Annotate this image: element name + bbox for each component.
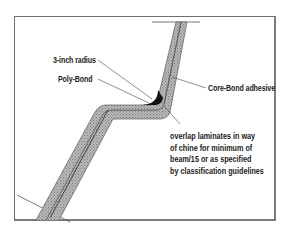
note-line: by classification guidelines (170, 166, 264, 178)
core-bond-line (50, 110, 108, 218)
note-line: overlap laminates in way (170, 131, 264, 143)
leader-core-bond (172, 77, 206, 88)
overlap-note: overlap laminates in way of chine for mi… (170, 131, 264, 177)
leader-radius (98, 60, 152, 99)
outer-laminate (45, 22, 187, 222)
chine-laminate-drawing (0, 0, 290, 235)
label-poly-bond: Poly-Bond (58, 74, 93, 84)
note-line: of chine for minimum of (170, 143, 264, 155)
leader-poly-bond (98, 79, 151, 104)
label-core-bond-adhesive: Core-Bond adhesive (208, 83, 275, 93)
label-3-inch-radius: 3-inch radius (53, 55, 96, 65)
note-line: beam/15 or as specified (170, 154, 264, 166)
